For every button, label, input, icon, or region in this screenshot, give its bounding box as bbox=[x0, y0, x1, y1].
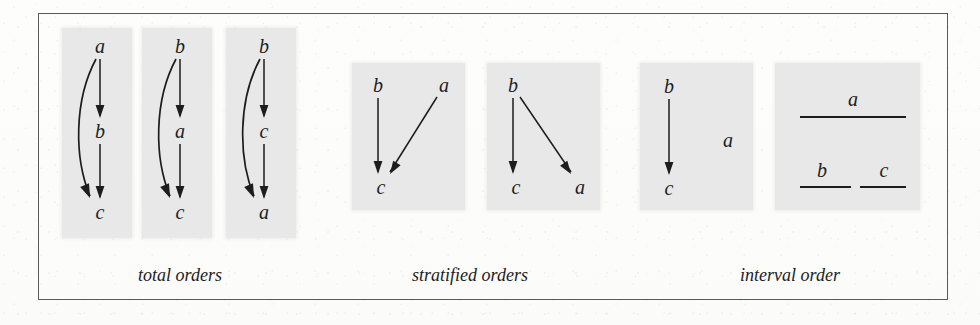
node-total-order-1-b: b bbox=[95, 121, 105, 141]
node-total-order-3-b: b bbox=[259, 36, 269, 56]
panel-interval-order-segments bbox=[775, 63, 920, 210]
node-total-order-1-a: a bbox=[95, 36, 105, 56]
node-stratified-order-2-a: a bbox=[575, 177, 585, 197]
node-interval-order-hasse-b: b bbox=[664, 76, 674, 96]
caption-interval-order: interval order bbox=[740, 265, 840, 286]
node-total-order-3-c: c bbox=[260, 121, 269, 141]
node-stratified-order-1-c: c bbox=[377, 177, 386, 197]
node-total-order-2-b: b bbox=[175, 36, 185, 56]
node-total-order-2-a: a bbox=[175, 121, 185, 141]
interval-label-c: c bbox=[880, 160, 889, 180]
figure-root: abcbacbcabacbcabcaabc total ordersstrati… bbox=[0, 0, 980, 325]
node-interval-order-hasse-c: c bbox=[665, 178, 674, 198]
node-stratified-order-2-c: c bbox=[512, 177, 521, 197]
node-total-order-1-c: c bbox=[96, 202, 105, 222]
interval-label-b: b bbox=[817, 160, 827, 180]
interval-label-a: a bbox=[848, 89, 858, 109]
caption-stratified-orders: stratified orders bbox=[412, 265, 528, 286]
node-interval-order-hasse-a: a bbox=[723, 130, 733, 150]
node-stratified-order-2-b: b bbox=[508, 75, 518, 95]
node-stratified-order-1-b: b bbox=[373, 75, 383, 95]
caption-total-orders: total orders bbox=[138, 265, 222, 286]
panel-interval-order-hasse bbox=[640, 63, 753, 210]
node-total-order-3-a: a bbox=[259, 202, 269, 222]
node-stratified-order-1-a: a bbox=[439, 75, 449, 95]
node-total-order-2-c: c bbox=[176, 202, 185, 222]
